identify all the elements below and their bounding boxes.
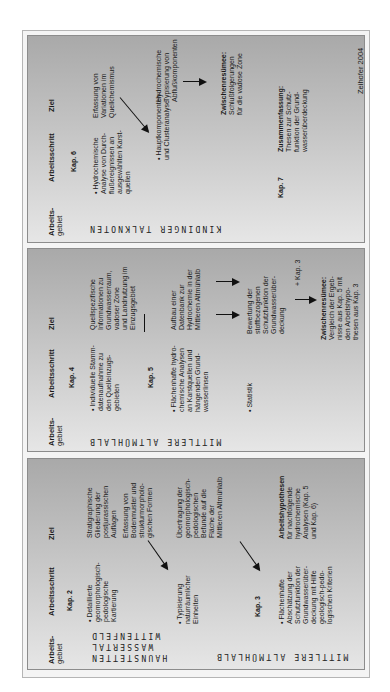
step-master-data: • Individuelle Stamm-datenaufnahme zuden… (89, 345, 121, 411)
header-goal: Ziel (48, 317, 56, 330)
header-goal: Ziel (48, 527, 56, 540)
working-hypotheses: Arbeitshypothesenfür nachfolgendehydroch… (278, 476, 318, 539)
region-label-kindinger: KINDINGER TALKNOTEN (88, 224, 221, 233)
region-label-mittlere-altmuehlalb: MITTLERE ALTMÜHLALB (215, 652, 348, 661)
author-credit: Zeihofer 2004 (357, 48, 365, 94)
goal-transfer-findings: Übertragung dergeomorphologisch-pedologi… (176, 477, 224, 538)
chapter-label: Kap. 3 (254, 596, 262, 617)
chapter-label: Kap. 4 (68, 367, 76, 388)
region-label-mittlere-altmuehlalb: MITTLERE ALTMÜHLALB (88, 437, 221, 446)
step-detailed-mapping: • Detailliertegeomorphologisch-pedologis… (86, 562, 118, 622)
header-area: Arbeits-gebiet (48, 418, 64, 446)
final-summary: Zusammenfassung:Thesen zur Schutz-funkti… (277, 86, 309, 152)
step-areal-estimation: • FlächenhafteAbschätzung derSchutzfunkt… (278, 566, 334, 624)
connector-line (144, 314, 145, 332)
step-principal-components: • Hauptkomponenten-und Clusteranalyse (155, 92, 171, 160)
chapter-label: Kap. 2 (66, 590, 74, 611)
goal-stratigraphy: StratigraphischeGliederung derpostjurass… (86, 486, 118, 538)
region-label-haunstetten: HAUNSTETTENWASSERTALWITTENFELD (90, 630, 167, 663)
goal-database: Aufbau einerDatenbank zurHydrochemie in … (170, 269, 202, 330)
goal-variation: Erfassung vonVariationen imQuellchemismu… (92, 66, 116, 118)
step-areal-hydrochem: • Flächenhafte hydro-chemische Analysena… (170, 345, 210, 412)
step-statistics: • Statistik (246, 383, 254, 412)
chapter-label: Kap. 6 (70, 151, 78, 172)
interim-summary-vadose: Zwischenresümee:Schlußfolgerungenfür die… (220, 52, 244, 115)
panel-kindinger-talknoten (27, 35, 365, 243)
goal-soil-patterns: Erfassung vonBodenmuster undstrukturmorp… (122, 483, 154, 538)
step-hydrochem-analysis: • HydrochemischeAnalyse von Durch-flußer… (92, 130, 132, 194)
eval-protection-function: Bewertung derstoffbezogenenSchutzfunktio… (246, 276, 286, 334)
header-step: Arbeitsschritt (48, 567, 56, 616)
chapter-label: Kap. 7 (277, 177, 285, 198)
goal-runoff-typing: HydrochemischeTypisierung vonAbflußkompo… (155, 39, 179, 102)
goal-source-info: QuellspezifischeInformationen zuGrundwas… (89, 267, 137, 330)
header-goal: Ziel (48, 99, 56, 112)
header-step: Arbeitsschritt (48, 349, 56, 398)
interim-summary-comparison: Zwischenresümee:Vergleich der Ergeb-niss… (320, 276, 360, 340)
header-area: Arbeits-gebiet (48, 636, 64, 664)
kap3-reference: + Kap. 3 (294, 260, 302, 286)
arrow-icon (216, 281, 238, 282)
arrow-icon (216, 314, 238, 315)
arrow-icon (183, 81, 205, 82)
chapter-label: Kap. 5 (147, 367, 155, 388)
header-area: Arbeits-gebiet (48, 208, 64, 236)
step-typing-units: • TypisierungnaturräumlicherEinheiten (176, 575, 200, 624)
header-step: Arbeitsschritt (48, 133, 56, 182)
arrow-icon (295, 299, 315, 300)
